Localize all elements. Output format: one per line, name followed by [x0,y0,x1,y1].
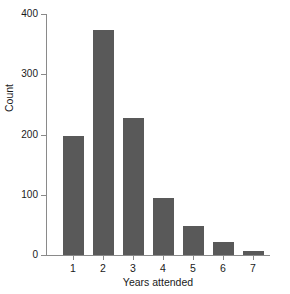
bar-3 [123,118,144,255]
bar-6 [213,242,234,255]
x-axis-tick-label: 2 [88,262,118,274]
y-axis-line [46,14,47,256]
y-axis-tick [41,255,46,256]
x-axis-tick [133,256,134,260]
y-axis-tick [41,14,46,15]
y-axis-tick-label: 200 [0,130,41,140]
y-axis-tick-label: 300 [0,69,41,79]
y-axis-tick-label: 0 [0,250,41,260]
x-axis-tick [193,256,194,260]
bar-chart-figure: 0 100 200 300 400 1 2 3 4 5 6 7 Years at… [0,0,290,294]
x-axis-tick-label: 3 [118,262,148,274]
y-axis-tick [41,74,46,75]
x-axis-tick [223,256,224,260]
x-axis-tick [73,256,74,260]
x-axis-tick [103,256,104,260]
y-axis-tick [41,195,46,196]
y-axis-tick-label: 400 [0,9,41,19]
x-axis-line [46,255,270,256]
y-axis-title: Count [3,84,15,112]
x-axis-tick-label: 7 [238,262,268,274]
bar-7 [243,251,264,255]
x-axis-tick-label: 6 [208,262,238,274]
x-axis-tick-label: 5 [178,262,208,274]
x-axis-tick [163,256,164,260]
x-axis-tick-label: 1 [58,262,88,274]
bar-4 [153,198,174,255]
y-axis-tick [41,135,46,136]
bar-1 [63,136,84,255]
x-axis-title: Years attended [46,276,270,288]
bar-2 [93,30,114,255]
y-axis-tick-label: 100 [0,190,41,200]
x-axis-tick [253,256,254,260]
x-axis-tick-label: 4 [148,262,178,274]
plot-area: 0 100 200 300 400 1 2 3 4 5 6 7 Years at… [0,0,290,294]
bar-5 [183,226,204,255]
